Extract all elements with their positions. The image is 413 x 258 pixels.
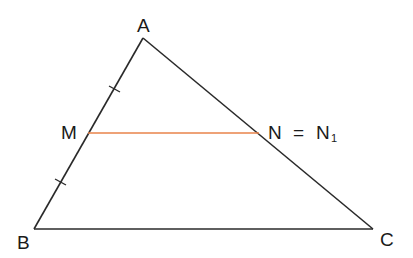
label-c: C	[380, 229, 394, 250]
label-n1-subscript: 1	[331, 132, 337, 144]
triangle-diagram: A M B C N = N 1	[0, 0, 413, 258]
label-m: M	[61, 122, 77, 143]
label-n: N	[268, 122, 282, 143]
label-n1: N	[316, 122, 330, 143]
label-b: B	[17, 232, 30, 253]
label-equals: =	[293, 122, 304, 143]
label-a: A	[137, 15, 150, 36]
